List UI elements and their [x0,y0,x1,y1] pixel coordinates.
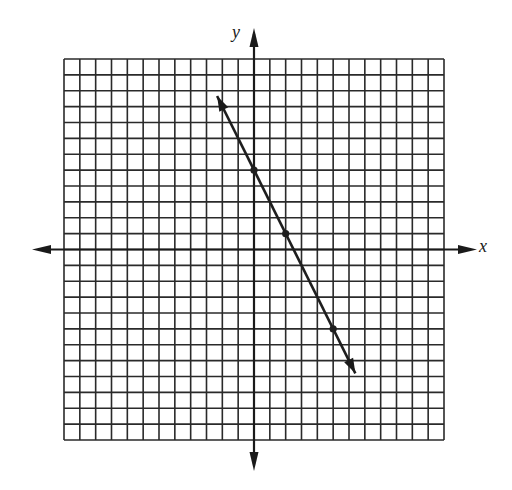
axes [32,28,477,471]
data-point [330,325,337,332]
data-point [250,167,257,174]
y-axis-arrow-down-icon [250,452,259,471]
coordinate-plane [0,0,512,490]
x-axis-arrow-left-icon [32,245,51,254]
x-axis-label: x [479,237,487,255]
data-point [282,230,289,237]
y-axis-arrow-up-icon [250,28,259,47]
x-axis-arrow-right-icon [458,245,477,254]
y-axis-label: y [232,23,240,41]
